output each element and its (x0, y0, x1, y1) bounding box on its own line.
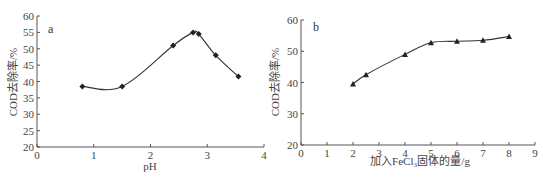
x-tick-label: 1 (324, 147, 330, 159)
x-tick-label: 8 (506, 147, 512, 159)
x-tick-label: 4 (261, 149, 267, 161)
triangle-marker (506, 34, 512, 40)
y-tick-label: 20 (287, 139, 299, 151)
y-tick-label: 60 (23, 10, 35, 22)
x-tick-label: 7 (480, 147, 486, 159)
diamond-marker (190, 29, 196, 35)
x-tick-label: 3 (205, 149, 211, 161)
triangle-marker (402, 51, 408, 57)
y-tick-label: 20 (23, 141, 35, 153)
y-tick-label: 50 (23, 43, 35, 55)
x-tick-label: 0 (34, 149, 40, 161)
chart-a-series-line (82, 31, 238, 90)
chart-a-panel-label: a (48, 22, 54, 36)
chart-b-axes (301, 20, 535, 145)
x-tick-label: 1 (91, 149, 97, 161)
chart-a-x-axis-label: pH (143, 160, 157, 172)
y-tick-label: 55 (23, 26, 35, 38)
y-tick-label: 40 (287, 77, 299, 89)
y-tick-label: 45 (23, 59, 35, 71)
y-tick-label: 25 (23, 125, 35, 137)
chart-a-axes (37, 16, 264, 147)
chart-a-ph: 202530354045505560 01234 a pH COD去除率/% (6, 10, 267, 172)
diamond-marker (79, 83, 85, 89)
x-tick-label: 0 (298, 147, 304, 159)
figure: 202530354045505560 01234 a pH COD去除率/% 2… (0, 0, 543, 179)
diamond-marker (119, 83, 125, 89)
chart-b-x-axis-label: 加入FeCl₃固体的量/g (370, 154, 470, 167)
chart-a-y-axis-label: COD去除率/% (6, 48, 19, 116)
chart-b-panel-label: b (313, 20, 319, 34)
y-tick-label: 60 (287, 14, 299, 26)
y-tick-label: 30 (287, 108, 299, 120)
chart-b-fecl3: 2030405060 0123456789 b 加入FeCl₃固体的量/g CO… (268, 14, 538, 167)
chart-b-markers (350, 34, 512, 87)
chart-b-y-axis-label: COD去除率/% (268, 48, 281, 116)
y-tick-label: 30 (23, 108, 35, 120)
y-tick-label: 40 (23, 76, 35, 88)
triangle-marker (363, 72, 369, 78)
y-tick-label: 35 (23, 92, 35, 104)
x-tick-label: 9 (532, 147, 538, 159)
chart-a-markers (79, 29, 241, 89)
y-tick-label: 50 (287, 45, 299, 57)
x-tick-label: 2 (350, 147, 356, 159)
